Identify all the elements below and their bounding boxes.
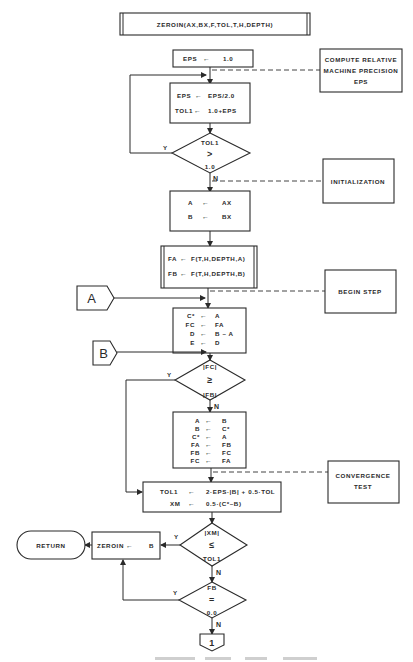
svg-text:EPS: EPS bbox=[177, 92, 191, 99]
assign-arrow-icon: ← bbox=[195, 92, 203, 99]
svg-text:CONVERGENCE: CONVERGENCE bbox=[335, 472, 390, 479]
svg-text:FB: FB bbox=[168, 270, 177, 277]
decision-xm-le-tol1: |XM| ≤ TOL1 Y N bbox=[174, 523, 247, 576]
decision-fc-ge-fb: |FC| ≥ |FB| Y N bbox=[167, 360, 245, 410]
svg-text:0.5·(C*–B): 0.5·(C*–B) bbox=[206, 500, 242, 507]
yes-label: Y bbox=[167, 371, 172, 378]
svg-text:FB: FB bbox=[222, 441, 231, 448]
svg-text:BEGIN STEP: BEGIN STEP bbox=[338, 288, 381, 295]
svg-text:COMPUTE RELATIVE: COMPUTE RELATIVE bbox=[325, 56, 397, 63]
svg-text:E: E bbox=[190, 339, 195, 346]
svg-text:C*: C* bbox=[192, 433, 200, 440]
svg-text:0.0: 0.0 bbox=[207, 609, 217, 616]
decision-tol1-gt-one: TOL1 > 1.0 Y N bbox=[163, 133, 250, 182]
init-box: A ← AX B ← BX bbox=[170, 191, 250, 231]
svg-text:B: B bbox=[99, 346, 108, 361]
connector-a: A bbox=[77, 286, 114, 310]
svg-text:FB: FB bbox=[191, 449, 200, 456]
svg-text:XM: XM bbox=[170, 500, 180, 507]
svg-text:FA: FA bbox=[168, 255, 177, 262]
caption-fragment bbox=[283, 657, 317, 660]
svg-text:FA: FA bbox=[215, 321, 224, 328]
svg-text:RETURN: RETURN bbox=[36, 542, 65, 549]
no-label: N bbox=[216, 621, 222, 628]
svg-text:TEST: TEST bbox=[354, 483, 372, 490]
svg-text:≤: ≤ bbox=[209, 540, 215, 550]
return-terminal: RETURN bbox=[17, 531, 85, 559]
svg-text:B: B bbox=[188, 213, 193, 220]
svg-text:F(T,H,DEPTH,B): F(T,H,DEPTH,B) bbox=[191, 270, 245, 277]
assign-arrow-icon: ← bbox=[194, 107, 202, 114]
svg-text:FA: FA bbox=[222, 457, 231, 464]
no-label: N bbox=[216, 569, 222, 576]
svg-text:1.0+EPS: 1.0+EPS bbox=[208, 107, 237, 114]
annotation-machine-precision: COMPUTE RELATIVE MACHINE PRECISION EPS bbox=[320, 49, 402, 92]
svg-text:ZEROIN: ZEROIN bbox=[97, 542, 124, 549]
svg-text:FC: FC bbox=[186, 321, 195, 328]
assign-arrow-icon: ← bbox=[200, 339, 208, 346]
assign-arrow-icon: ← bbox=[205, 425, 213, 432]
svg-text:AX: AX bbox=[222, 199, 232, 206]
svg-text:FB: FB bbox=[207, 584, 216, 591]
assign-arrow-icon: ← bbox=[200, 321, 208, 328]
svg-text:B: B bbox=[149, 542, 154, 549]
svg-text:TOL1: TOL1 bbox=[175, 107, 193, 114]
connector-b: B bbox=[93, 341, 117, 365]
svg-text:>: > bbox=[207, 149, 213, 159]
title-box: ZEROIN(AX,BX,F,TOL,T,H,DEPTH) bbox=[120, 13, 310, 35]
assign-arrow-icon: ← bbox=[202, 199, 210, 206]
title-text: ZEROIN(AX,BX,F,TOL,T,H,DEPTH) bbox=[157, 21, 273, 28]
svg-text:A: A bbox=[195, 417, 200, 424]
caption-fragment bbox=[205, 657, 231, 660]
function-eval-box: FA ← F(T,H,DEPTH,A) FB ← F(T,H,DEPTH,B) bbox=[161, 246, 257, 288]
svg-text:FC: FC bbox=[191, 457, 200, 464]
offpage-connector-1: 1 bbox=[200, 634, 224, 651]
svg-text:A: A bbox=[188, 199, 193, 206]
assign-arrow-icon: ← bbox=[205, 433, 213, 440]
yes-label: Y bbox=[163, 144, 168, 151]
svg-text:A: A bbox=[215, 312, 220, 319]
svg-text:D: D bbox=[190, 330, 195, 337]
assign-arrow-icon: ← bbox=[205, 457, 213, 464]
svg-text:1: 1 bbox=[209, 638, 215, 648]
zeroin-flowchart: ZEROIN(AX,BX,F,TOL,T,H,DEPTH) EPS ← 1.0 … bbox=[0, 0, 413, 662]
svg-text:C*: C* bbox=[187, 312, 195, 319]
svg-text:≥: ≥ bbox=[207, 375, 213, 385]
assign-arrow-icon: ← bbox=[205, 417, 213, 424]
assign-arrow-icon: ← bbox=[200, 330, 208, 337]
assign-arrow-icon: ← bbox=[188, 488, 196, 495]
svg-text:|FB|: |FB| bbox=[203, 391, 217, 398]
svg-text:F(T,H,DEPTH,A): F(T,H,DEPTH,A) bbox=[191, 255, 245, 262]
svg-text:B: B bbox=[222, 417, 227, 424]
assign-arrow-icon: ← bbox=[180, 255, 188, 262]
svg-text:TOL1: TOL1 bbox=[201, 139, 219, 146]
decision-fb-eq-zero: FB = 0.0 Y N bbox=[173, 582, 246, 628]
assign-arrow-icon: ← bbox=[205, 441, 213, 448]
eps-init-box: EPS ← 1.0 bbox=[173, 50, 253, 67]
assign-arrow-icon: ← bbox=[200, 312, 208, 319]
svg-text:INITIALIZATION: INITIALIZATION bbox=[331, 178, 385, 185]
svg-text:|XM|: |XM| bbox=[204, 529, 219, 536]
no-label: N bbox=[214, 403, 220, 410]
begin-step-box: C* ← A FC ← FA D ← B – A E ← D bbox=[173, 308, 246, 353]
svg-text:TOL1: TOL1 bbox=[160, 488, 178, 495]
svg-text:MACHINE PRECISION: MACHINE PRECISION bbox=[324, 67, 399, 74]
svg-text:A: A bbox=[222, 433, 227, 440]
svg-text:1.0: 1.0 bbox=[223, 55, 233, 62]
yes-label: Y bbox=[174, 533, 179, 540]
svg-text:2·EPS·|B| + 0.5·TOL: 2·EPS·|B| + 0.5·TOL bbox=[206, 488, 275, 495]
svg-text:B – A: B – A bbox=[215, 330, 234, 337]
swap-box: A ← B B ← C* C* ← A FA ← FB FB ← FC FC ←… bbox=[173, 412, 246, 468]
svg-text:FA: FA bbox=[191, 441, 200, 448]
assign-arrow-icon: ← bbox=[180, 270, 188, 277]
assign-arrow-icon: ← bbox=[205, 449, 213, 456]
annotation-initialization: INITIALIZATION bbox=[323, 159, 394, 203]
svg-text:B: B bbox=[195, 425, 200, 432]
convergence-box: TOL1 ← 2·EPS·|B| + 0.5·TOL XM ← 0.5·(C*–… bbox=[143, 482, 281, 512]
svg-text:EPS/2.0: EPS/2.0 bbox=[208, 92, 235, 99]
eps-halving-box: EPS ← EPS/2.0 TOL1 ← 1.0+EPS bbox=[170, 83, 250, 123]
svg-text:FC: FC bbox=[222, 449, 231, 456]
assign-arrow-icon: ← bbox=[126, 542, 134, 549]
svg-text:=: = bbox=[209, 595, 215, 605]
assign-arrow-icon: ← bbox=[203, 55, 211, 62]
